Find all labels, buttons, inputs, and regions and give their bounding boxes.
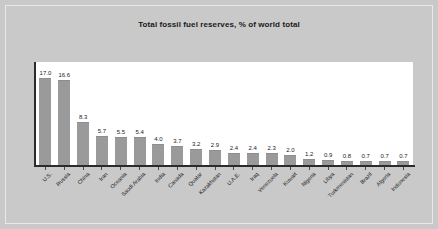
x-axis-category-label: India	[153, 171, 166, 184]
bar-value-label: 5.4	[135, 129, 143, 136]
bar	[247, 153, 259, 165]
bar-value-label: 3.2	[192, 141, 200, 148]
chart-figure: Total fossil fuel reserves, % of world t…	[0, 0, 438, 229]
bar	[397, 161, 409, 165]
bar-slot: 5.7	[93, 62, 112, 165]
bar-slot: 17.0	[36, 62, 55, 165]
bar-slot: 3.2	[187, 62, 206, 165]
bar-slot: 0.9	[319, 62, 338, 165]
bar-value-label: 3.7	[173, 138, 181, 145]
bar	[190, 149, 202, 165]
bar-value-label: 2.4	[249, 145, 257, 152]
bar-value-label: 0.7	[362, 153, 370, 160]
x-axis-category-label: Algeria	[376, 171, 392, 187]
bar-series: 17.016.68.35.75.55.44.03.73.22.92.42.42.…	[36, 62, 413, 165]
x-axis-category-label: Kuwait	[282, 171, 298, 187]
bar-slot: 2.0	[281, 62, 300, 165]
x-axis-label-slot: Canada	[168, 170, 187, 210]
bar-value-label: 5.5	[117, 129, 125, 136]
bar	[322, 160, 334, 165]
bar-value-label: 2.4	[230, 145, 238, 152]
x-axis-category-label: Iraq	[249, 171, 260, 182]
bar	[228, 153, 240, 165]
bar-value-label: 8.3	[79, 114, 87, 121]
bar-slot: 0.8	[338, 62, 357, 165]
x-axis-category-label: Russia	[55, 171, 71, 187]
bar-value-label: 5.7	[98, 128, 106, 135]
bar	[360, 161, 372, 165]
bar-value-label: 16.6	[58, 72, 70, 79]
bar	[134, 137, 146, 165]
bar-slot: 16.6	[55, 62, 74, 165]
chart-title: Total fossil fuel reserves, % of world t…	[0, 20, 438, 29]
bar-slot: 0.7	[375, 62, 394, 165]
bar-value-label: 0.7	[380, 153, 388, 160]
x-axis-label-slot: Kazakhstan	[206, 170, 225, 210]
bar-slot: 5.4	[130, 62, 149, 165]
bar-value-label: 2.0	[286, 147, 294, 154]
bar-value-label: 2.9	[211, 142, 219, 149]
bar	[115, 137, 127, 165]
bar	[341, 161, 353, 165]
x-axis-label-slot: Turkmenistan	[338, 170, 357, 210]
bar-slot: 2.4	[243, 62, 262, 165]
x-axis-category-label: Libya	[322, 171, 336, 185]
bar-slot: 4.0	[149, 62, 168, 165]
x-axis-category-label: U.A.E.	[226, 171, 241, 186]
bar	[379, 161, 391, 165]
x-axis-labels: U.S.RussiaChinaIranOceaniaSaudi ArabiaIn…	[36, 170, 413, 210]
bar-slot: 5.5	[111, 62, 130, 165]
x-axis-label-slot: India	[149, 170, 168, 210]
x-axis-label-slot: Venezuela	[262, 170, 281, 210]
bar	[303, 159, 315, 165]
x-axis-label-slot: Russia	[55, 170, 74, 210]
bar-slot: 2.9	[206, 62, 225, 165]
bar	[209, 150, 221, 165]
bar-slot: 0.7	[356, 62, 375, 165]
bar	[266, 153, 278, 165]
bar-slot: 2.4	[224, 62, 243, 165]
x-axis-label-slot: Indonesia	[394, 170, 413, 210]
x-axis-category-label: Iran	[98, 171, 109, 182]
x-axis-label-slot: U.S.	[36, 170, 55, 210]
x-axis-category-label: Canada	[167, 171, 185, 189]
x-axis-category-label: Brazil	[359, 171, 373, 185]
x-axis-category-label: China	[76, 171, 90, 185]
x-axis-category-label: Nigeria	[300, 171, 317, 188]
bar-slot: 8.3	[74, 62, 93, 165]
bar-value-label: 4.0	[154, 136, 162, 143]
x-axis-label-slot: Iran	[93, 170, 112, 210]
bar	[284, 155, 296, 165]
x-axis-label-slot: China	[74, 170, 93, 210]
bar	[58, 80, 70, 165]
bar	[77, 122, 89, 165]
bar-slot: 3.7	[168, 62, 187, 165]
bar	[39, 78, 51, 165]
x-axis-category-label: U.S.	[41, 171, 53, 183]
x-axis-label-slot: Saudi Arabia	[130, 170, 149, 210]
bar-slot: 0.7	[394, 62, 413, 165]
bar-value-label: 17.0	[40, 70, 52, 77]
bar-value-label: 2.3	[267, 145, 275, 152]
bar-value-label: 0.8	[343, 153, 351, 160]
x-axis-label-slot: U.A.E.	[224, 170, 243, 210]
x-axis-label-slot: Nigeria	[300, 170, 319, 210]
bar	[96, 136, 108, 165]
bar	[152, 144, 164, 165]
bar-value-label: 0.9	[324, 152, 332, 159]
x-axis-label-slot: Brazil	[356, 170, 375, 210]
bar-value-label: 0.7	[399, 153, 407, 160]
x-axis-category-label: Quatar	[187, 171, 203, 187]
bar-slot: 1.2	[300, 62, 319, 165]
bar	[171, 146, 183, 165]
x-axis-label-slot: Kuwait	[281, 170, 300, 210]
bar-value-label: 1.2	[305, 151, 313, 158]
bar-slot: 2.3	[262, 62, 281, 165]
